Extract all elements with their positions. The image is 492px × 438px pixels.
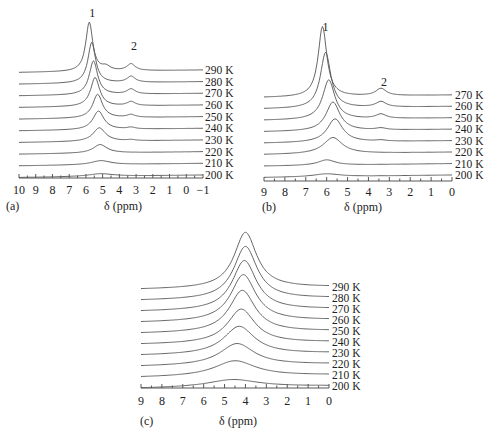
temperature-label: 240 K — [332, 336, 361, 348]
temperature-label: 290 K — [205, 64, 234, 76]
spectrum-trace-220k — [19, 145, 203, 155]
temperature-label: 200 K — [455, 169, 484, 181]
x-tick-label: 9 — [261, 185, 267, 199]
x-tick-label: 1 — [428, 185, 434, 199]
x-tick-label: 0 — [183, 183, 189, 197]
peak-annotation: 1 — [89, 6, 95, 20]
spectrum-trace-220k — [141, 344, 329, 366]
panel-a: 109876543210−1(a)δ (ppm)200 K210 K220 K2… — [6, 6, 234, 213]
panel-label: (a) — [6, 199, 19, 213]
peak-annotation: 2 — [131, 39, 137, 53]
x-tick-label: 2 — [284, 394, 290, 408]
spectrum-trace-260k — [264, 52, 452, 108]
temperature-label: 250 K — [205, 111, 234, 123]
x-tick-label: 10 — [13, 183, 25, 197]
spectrum-trace-250k — [141, 290, 329, 332]
spectrum-trace-230k — [141, 326, 329, 354]
temperature-label: 260 K — [205, 99, 234, 111]
temperature-label: 250 K — [455, 112, 484, 124]
spectrum-trace-270k — [264, 26, 452, 97]
spectrum-trace-210k — [19, 161, 203, 166]
peak-annotation: 2 — [381, 75, 387, 89]
x-tick-label: 9 — [33, 183, 39, 197]
x-tick-label: 6 — [201, 394, 207, 408]
x-tick-label: 3 — [386, 185, 392, 199]
spectrum-trace-240k — [141, 309, 329, 344]
temperature-label: 250 K — [332, 325, 361, 337]
temperature-label: 260 K — [455, 100, 484, 112]
spectrum-trace-200k — [264, 174, 452, 178]
x-tick-label: 8 — [159, 394, 165, 408]
nmr-figure: 109876543210−1(a)δ (ppm)200 K210 K220 K2… — [0, 0, 492, 438]
temperature-label: 270 K — [332, 303, 361, 315]
x-tick-label: 3 — [263, 394, 269, 408]
x-axis-label: δ (ppm) — [104, 199, 142, 213]
temperature-label: 230 K — [205, 134, 234, 146]
x-tick-label: 2 — [407, 185, 413, 199]
x-tick-label: 4 — [365, 185, 371, 199]
temperature-label: 230 K — [455, 135, 484, 147]
spectrum-trace-280k — [19, 42, 203, 84]
x-tick-label: 0 — [449, 185, 455, 199]
spectrum-trace-210k — [264, 160, 452, 166]
temperature-label: 280 K — [205, 76, 234, 88]
spectrum-trace-250k — [264, 80, 452, 120]
x-tick-label: 6 — [83, 183, 89, 197]
panel-label: (b) — [262, 200, 276, 214]
temperature-label: 260 K — [332, 314, 361, 326]
spectrum-trace-290k — [19, 22, 203, 72]
temperature-label: 240 K — [455, 123, 484, 135]
panel-b: 9876543210(b)δ (ppm)200 K210 K220 K230 K… — [261, 20, 484, 214]
spectrum-trace-220k — [264, 138, 452, 155]
temperature-label: 220 K — [332, 358, 361, 370]
x-tick-label: 4 — [242, 394, 248, 408]
temperature-label: 230 K — [332, 347, 361, 359]
x-tick-label: 1 — [305, 394, 311, 408]
x-axis-label: δ (ppm) — [344, 200, 382, 214]
x-tick-label: 8 — [282, 185, 288, 199]
temperature-label: 220 K — [455, 146, 484, 158]
x-tick-label: 8 — [49, 183, 55, 197]
temperature-label: 240 K — [205, 122, 234, 134]
spectrum-trace-230k — [264, 119, 452, 143]
x-tick-label: 6 — [324, 185, 330, 199]
temperature-label: 270 K — [205, 87, 234, 99]
temperature-label: 210 K — [332, 369, 361, 381]
peak-annotation: 1 — [322, 20, 328, 34]
x-tick-label: 3 — [133, 183, 139, 197]
temperature-label: 200 K — [332, 380, 361, 392]
panel-c: 9876543210(c)δ (ppm)200 K210 K220 K230 K… — [138, 232, 361, 428]
x-tick-label: 0 — [326, 394, 332, 408]
x-tick-label: 5 — [100, 183, 106, 197]
temperature-label: 290 K — [332, 281, 361, 293]
x-tick-label: 7 — [66, 183, 72, 197]
x-tick-label: 5 — [345, 185, 351, 199]
temperature-label: 210 K — [205, 157, 234, 169]
spectrum-trace-210k — [141, 361, 329, 377]
x-tick-label: 7 — [303, 185, 309, 199]
x-tick-label: 9 — [138, 394, 144, 408]
temperature-label: 220 K — [205, 146, 234, 158]
panel-label: (c) — [140, 414, 153, 428]
x-tick-label: 1 — [167, 183, 173, 197]
x-tick-label: 4 — [116, 183, 122, 197]
x-tick-label: −1 — [197, 183, 210, 197]
x-axis-label: δ (ppm) — [219, 414, 257, 428]
x-tick-label: 7 — [180, 394, 186, 408]
temperature-label: 270 K — [455, 89, 484, 101]
temperature-label: 280 K — [332, 292, 361, 304]
spectrum-trace-290k — [141, 232, 329, 288]
x-tick-label: 5 — [222, 394, 228, 408]
temperature-label: 210 K — [455, 158, 484, 170]
temperature-label: 200 K — [205, 169, 234, 181]
spectrum-trace-270k — [19, 61, 203, 96]
x-tick-label: 2 — [150, 183, 156, 197]
